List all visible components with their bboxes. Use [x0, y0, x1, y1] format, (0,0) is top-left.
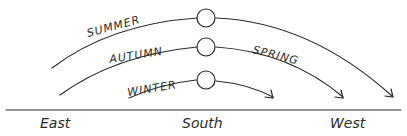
autumn-sun-icon — [197, 38, 215, 56]
summer-arc-west — [216, 18, 392, 96]
sun-path-diagram: SUMMER AUTUMN SPRING WINTER East South W… — [0, 0, 407, 136]
summer-sun-icon — [197, 9, 215, 27]
winter-sun-icon — [197, 71, 215, 89]
spring-label: SPRING — [251, 43, 300, 67]
winter-arc-west — [216, 81, 273, 97]
south-label: South — [182, 115, 223, 131]
autumn-label: AUTUMN — [107, 45, 163, 66]
winter-label: WINTER — [126, 78, 177, 99]
east-label: East — [40, 115, 71, 131]
summer-label: SUMMER — [85, 13, 141, 40]
west-label: West — [330, 115, 366, 131]
